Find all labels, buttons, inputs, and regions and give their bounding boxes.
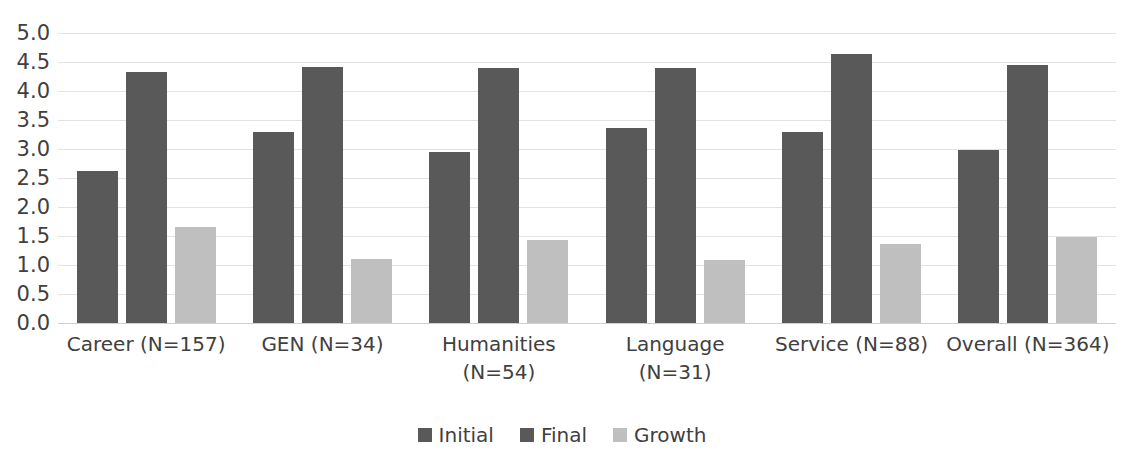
bar-group <box>763 33 939 323</box>
x-axis-label-line: GEN (N=34) <box>261 332 383 356</box>
bar-groups <box>58 33 1116 323</box>
x-axis-label-line: (N=54) <box>413 358 585 386</box>
bar-group <box>234 33 410 323</box>
bar-initial <box>606 128 647 323</box>
legend-label: Initial <box>439 424 494 446</box>
plot-area <box>58 33 1116 323</box>
legend-swatch-icon <box>613 428 627 442</box>
bar-final <box>831 54 872 323</box>
bar-final <box>302 67 343 323</box>
bar-initial <box>77 171 118 323</box>
y-axis-tick-label: 3.5 <box>17 110 50 131</box>
bar-growth <box>527 240 568 323</box>
y-axis-tick-label: 5.0 <box>17 23 50 44</box>
y-axis-tick-label: 0.5 <box>17 284 50 305</box>
bar-growth <box>175 227 216 323</box>
x-axis-category-label: Language(N=31) <box>587 330 763 410</box>
y-axis-tick-label: 2.0 <box>17 197 50 218</box>
y-axis-tick-label: 2.5 <box>17 168 50 189</box>
y-axis-tick-label: 1.0 <box>17 255 50 276</box>
legend-label: Final <box>541 424 587 446</box>
x-axis-label-line: (N=31) <box>589 358 761 386</box>
axis-baseline <box>58 323 1116 324</box>
x-axis-label-line: Career (N=157) <box>67 332 226 356</box>
y-axis-tick-label: 3.0 <box>17 139 50 160</box>
bar-final <box>655 68 696 323</box>
legend-item[interactable]: Initial <box>418 424 494 446</box>
bar-initial <box>782 132 823 323</box>
y-axis-tick-label: 4.5 <box>17 52 50 73</box>
legend-swatch-icon <box>418 428 432 442</box>
x-axis: Career (N=157)GEN (N=34)Humanities(N=54)… <box>58 330 1116 410</box>
bar-growth <box>1056 237 1097 323</box>
bar-group <box>58 33 234 323</box>
y-axis-tick-label: 4.0 <box>17 81 50 102</box>
bar-growth <box>704 260 745 323</box>
bar-chart: 5.04.54.03.53.02.52.01.51.00.50.0 Career… <box>0 0 1124 465</box>
bar-group <box>411 33 587 323</box>
chart-legend: InitialFinalGrowth <box>0 424 1124 446</box>
x-axis-category-label: Humanities(N=54) <box>411 330 587 410</box>
bar-initial <box>958 150 999 323</box>
x-axis-label-line: Humanities <box>442 332 556 356</box>
y-axis-tick-label: 0.0 <box>17 313 50 334</box>
bar-final <box>1007 65 1048 323</box>
legend-item[interactable]: Final <box>520 424 587 446</box>
legend-swatch-icon <box>520 428 534 442</box>
bar-final <box>478 68 519 323</box>
x-axis-category-label: Service (N=88) <box>763 330 939 410</box>
x-axis-label-line: Overall (N=364) <box>946 332 1109 356</box>
bar-initial <box>429 152 470 323</box>
bar-growth <box>351 259 392 323</box>
y-axis: 5.04.54.03.53.02.52.01.51.00.50.0 <box>0 0 58 340</box>
y-axis-tick-label: 1.5 <box>17 226 50 247</box>
bar-final <box>126 72 167 323</box>
x-axis-category-label: Career (N=157) <box>58 330 234 410</box>
legend-label: Growth <box>634 424 706 446</box>
x-axis-category-label: GEN (N=34) <box>234 330 410 410</box>
x-axis-label-line: Service (N=88) <box>775 332 928 356</box>
x-axis-label-line: Language <box>626 332 725 356</box>
bar-group <box>587 33 763 323</box>
legend-item[interactable]: Growth <box>613 424 706 446</box>
bar-group <box>940 33 1116 323</box>
x-axis-category-label: Overall (N=364) <box>940 330 1116 410</box>
bar-growth <box>880 244 921 323</box>
bar-initial <box>253 132 294 323</box>
